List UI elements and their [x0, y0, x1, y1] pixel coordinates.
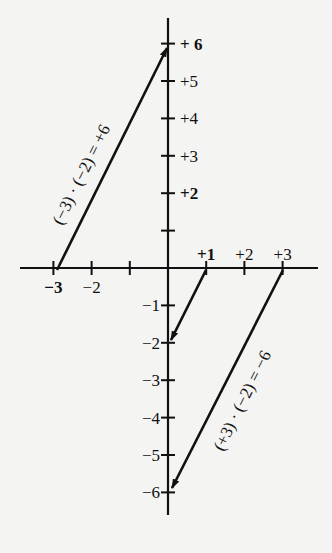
y-tick-label: −3 — [142, 371, 160, 390]
y-tick-label: +4 — [180, 109, 199, 128]
number-multiplication-diagram: −3−2+1+2+3 + 6+5+4+3+2−1−2−3−4−5−6 (−3) … — [0, 0, 332, 553]
x-tick-label: +3 — [274, 245, 292, 264]
x-tick-label: −2 — [83, 278, 101, 297]
y-tick-label: −6 — [142, 483, 160, 502]
arrow-pos1-to-neg2 — [171, 270, 206, 340]
y-tick-label: + 6 — [180, 35, 202, 54]
y-tick-label: −4 — [142, 409, 161, 428]
y-tick-label: −1 — [142, 296, 160, 315]
arrow-neg3-to-pos6 — [57, 48, 167, 270]
y-tick-label: −5 — [142, 446, 160, 465]
x-tick-label: +1 — [197, 245, 215, 264]
x-tick-label: −3 — [44, 278, 62, 297]
y-tick-label: −2 — [142, 334, 160, 353]
y-tick-label: +3 — [180, 147, 198, 166]
x-tick-label: +2 — [235, 245, 253, 264]
y-tick-label: +5 — [180, 72, 198, 91]
equation-label-negative: (+3) · (−2) = −6 — [210, 348, 276, 454]
y-tick-label: +2 — [180, 184, 198, 203]
